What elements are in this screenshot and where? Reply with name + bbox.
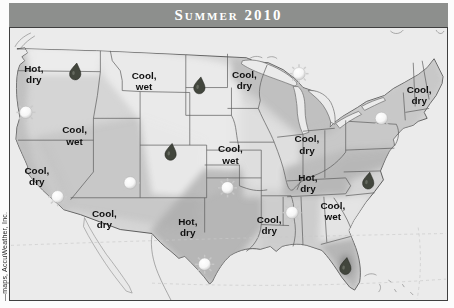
- us-forecast-map: Hot,dryCool,wetCool,wetCool,dryCool,dryC…: [10, 28, 447, 300]
- region-label-tennessee-valley: Hot,dry: [298, 172, 318, 194]
- region-label-texas: Hot,dry: [178, 216, 198, 238]
- map-attribution: —maps, AccuWeather, Inc.: [1, 212, 8, 301]
- page-title: Summer 2010: [174, 8, 282, 23]
- title-banner: Summer 2010: [9, 3, 448, 27]
- region-label-pacific-northwest: Hot,dry: [24, 63, 44, 85]
- map-frame: Hot,dryCool,wetCool,wetCool,dryCool,dryC…: [9, 27, 448, 301]
